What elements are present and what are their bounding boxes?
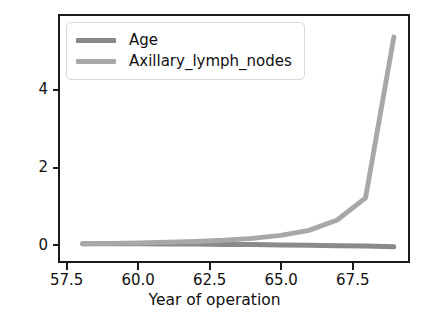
x-tick-label: 62.5 bbox=[193, 273, 226, 288]
x-tick-67-5: 67.5 bbox=[333, 263, 373, 288]
legend-swatch-age bbox=[76, 38, 116, 43]
x-tick-65-0: 65.0 bbox=[261, 263, 301, 288]
chart-legend: Age Axillary_lymph_nodes bbox=[66, 22, 305, 80]
legend-label-axillary-lymph-nodes: Axillary_lymph_nodes bbox=[129, 54, 292, 69]
x-tick-mark bbox=[352, 263, 354, 270]
y-tick-label: 2 bbox=[38, 160, 53, 175]
legend-swatch-axillary-lymph-nodes bbox=[76, 59, 116, 64]
x-tick-label: 57.5 bbox=[50, 273, 83, 288]
legend-label-age: Age bbox=[129, 33, 158, 48]
x-axis-label: Year of operation bbox=[0, 291, 429, 309]
chart-figure: Cummulative variance 0 2 4 Age Axillary_… bbox=[0, 0, 429, 325]
y-tick-label: 4 bbox=[38, 82, 53, 97]
x-tick-label: 65.0 bbox=[265, 273, 298, 288]
x-tick-mark bbox=[209, 263, 211, 270]
x-tick-mark bbox=[66, 263, 68, 270]
y-tick-2: 2 bbox=[0, 160, 60, 176]
x-tick-mark bbox=[137, 263, 139, 270]
x-tick-62-5: 62.5 bbox=[190, 263, 230, 288]
y-tick-label: 0 bbox=[38, 238, 53, 253]
x-tick-label: 67.5 bbox=[336, 273, 369, 288]
legend-item-age: Age bbox=[76, 30, 292, 51]
y-tick-0: 0 bbox=[0, 237, 60, 253]
x-tick-60-0: 60.0 bbox=[118, 263, 158, 288]
x-tick-mark bbox=[280, 263, 282, 270]
x-tick-57-5: 57.5 bbox=[47, 263, 87, 288]
legend-item-axillary-lymph-nodes: Axillary_lymph_nodes bbox=[76, 51, 292, 72]
y-tick-4: 4 bbox=[0, 82, 60, 98]
x-tick-label: 60.0 bbox=[121, 273, 154, 288]
